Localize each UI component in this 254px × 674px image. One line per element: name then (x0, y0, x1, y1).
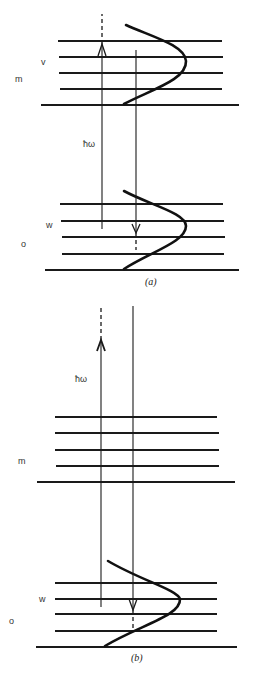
lower-wavefunction-curve (105, 561, 180, 646)
level-label: w (45, 220, 53, 230)
level-label: w (38, 594, 46, 604)
panel-a: vmħωwo(a) (15, 14, 239, 288)
panel-b: ħωmwo(b) (9, 305, 237, 664)
level-label: m (18, 456, 26, 466)
level-label: v (41, 57, 46, 67)
panel-caption: (a) (145, 276, 157, 288)
level-label: o (21, 239, 26, 249)
panel-caption: (b) (131, 652, 143, 664)
energy-level-figure: vmħωwo(a) ħωmwo(b) (0, 0, 254, 674)
level-label: ħω (83, 139, 95, 149)
level-label: o (9, 616, 14, 626)
upper-wavefunction-curve (124, 25, 186, 104)
level-label: ħω (75, 374, 87, 384)
level-label: m (15, 74, 23, 84)
lower-wavefunction-curve (124, 191, 186, 269)
